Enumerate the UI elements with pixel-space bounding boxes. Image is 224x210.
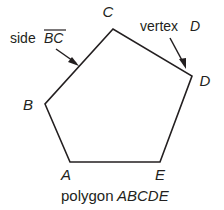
caption-italic: ABCDE	[116, 187, 170, 204]
caption-plain: polygon	[61, 187, 114, 204]
vertex-label-D: D	[200, 72, 211, 89]
annotation-vertex-d-plain: vertex	[140, 18, 178, 34]
annotation-side-bc: side BC	[10, 30, 79, 66]
annotation-side-bc-italic: BC	[44, 30, 64, 46]
figure-canvas: A B C D E side BC vertex D polygon ABCDE	[0, 0, 224, 210]
annotation-vertex-d-italic: D	[190, 18, 200, 34]
vertex-label-A: A	[60, 166, 71, 183]
caption: polygon ABCDE	[61, 187, 170, 204]
arrow-head-vertex-d	[179, 58, 186, 69]
annotation-vertex-d: vertex D	[140, 18, 200, 69]
vertex-label-B: B	[23, 96, 33, 113]
pentagon-outline	[45, 29, 192, 162]
geometry-figure: A B C D E side BC vertex D polygon ABCDE	[0, 0, 224, 210]
vertex-label-C: C	[103, 3, 114, 20]
vertex-label-E: E	[155, 166, 166, 183]
annotation-side-bc-plain: side	[10, 30, 36, 46]
